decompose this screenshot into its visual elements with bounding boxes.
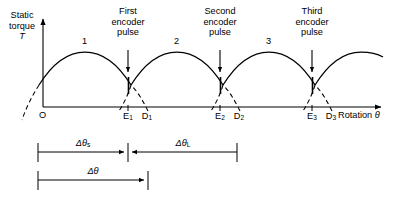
torque-curve-partial-left [39, 52, 131, 85]
dimension-label-delta-theta-s-symbol: Δθ [76, 138, 87, 148]
torque-curves [39, 52, 383, 85]
pulse-caption-second: Second encoder pulse [184, 6, 256, 38]
x-axis-label: Rotation θ [338, 110, 380, 121]
y-axis-label-line1: Static [2, 10, 42, 21]
axis-mark-E2-sub: 2 [221, 114, 225, 121]
dimension-label-delta-theta-s: Δθs [63, 138, 103, 151]
curve-number-3: 3 [266, 36, 271, 47]
pulse-caption-third-line3: pulse [276, 27, 348, 38]
dimension-label-delta-theta-L-symbol: Δθ [176, 138, 187, 148]
axis-mark-D2-sub: 2 [240, 114, 244, 121]
axis-mark-E2: E2 [210, 111, 230, 124]
pulse-caption-third-line2: encoder [276, 17, 348, 28]
pulse-caption-third: Third encoder pulse [276, 6, 348, 38]
dimension-label-delta-theta: Δθ [73, 166, 113, 179]
pulse-caption-first-line3: pulse [92, 27, 164, 38]
encoder-pulse-markers [129, 77, 313, 94]
axis-mark-D3: D3 [321, 111, 341, 124]
figure-canvas: Static torque T O Rotation θ 1 2 3 First… [0, 0, 395, 199]
dimension-label-delta-theta-s-sub: s [87, 141, 90, 148]
curve-number-1: 1 [82, 36, 87, 47]
axis-mark-E3: E3 [302, 111, 322, 124]
torque-curve-2 [223, 52, 315, 85]
axis-mark-D3-sub: 3 [332, 114, 336, 121]
y-axis-label-symbol: T [2, 31, 42, 42]
origin-label: O [39, 110, 46, 121]
pulse-caption-second-line1: Second [184, 6, 256, 17]
pulse-caption-second-line3: pulse [184, 27, 256, 38]
axis-mark-D2: D2 [229, 111, 249, 124]
pulse-caption-first-line2: encoder [92, 17, 164, 28]
dimension-label-delta-theta-L: ΔθL [163, 138, 203, 151]
axis-mark-D1: D1 [137, 111, 157, 124]
dashed-tail-origin [22, 85, 39, 120]
pulse-caption-first: First encoder pulse [92, 6, 164, 38]
dimension-label-delta-theta-L-sub: L [187, 141, 191, 148]
axis-mark-E1-sub: 1 [129, 114, 133, 121]
y-axis-label: Static torque T [2, 10, 42, 42]
torque-curve-1 [131, 52, 223, 85]
pulse-arrows [128, 50, 312, 72]
pulse-caption-first-line1: First [92, 6, 164, 17]
dimension-label-delta-theta-symbol: Δθ [87, 166, 98, 176]
pulse-caption-third-line1: Third [276, 6, 348, 17]
axis-mark-E3-sub: 3 [313, 114, 317, 121]
x-axis-label-symbol: θ [375, 110, 380, 120]
torque-curve-dashed-extensions [22, 85, 332, 120]
x-axis-label-text: Rotation [338, 110, 372, 120]
axis-mark-E1: E1 [118, 111, 138, 124]
axis-mark-D1-sub: 1 [148, 114, 152, 121]
torque-curve-3 [315, 52, 383, 85]
y-axis-label-line2: torque [2, 21, 42, 32]
pulse-caption-second-line2: encoder [184, 17, 256, 28]
curve-number-2: 2 [174, 36, 179, 47]
